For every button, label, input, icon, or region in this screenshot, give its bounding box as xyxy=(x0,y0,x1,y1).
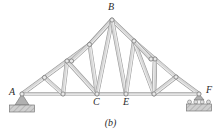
truss-members xyxy=(22,20,199,95)
support-ground-hatch xyxy=(10,105,35,112)
truss-joint xyxy=(65,59,69,63)
truss-member xyxy=(154,59,176,78)
truss-joint xyxy=(149,57,153,61)
support-ground-hatch xyxy=(187,104,212,111)
truss-joint xyxy=(61,92,65,96)
joint-label-E: E xyxy=(123,97,129,107)
roller-wheel xyxy=(194,100,198,104)
truss-diagram-canvas xyxy=(0,0,221,135)
joint-label-A: A xyxy=(9,87,15,97)
truss-member xyxy=(63,94,97,95)
roller-wheel xyxy=(207,100,211,104)
truss-joint xyxy=(132,39,136,43)
figure-caption: (b) xyxy=(0,118,221,128)
truss-member xyxy=(153,59,155,94)
truss-figure: ABCEF (b) xyxy=(0,0,221,135)
roller-support-F xyxy=(187,94,212,111)
truss-joint xyxy=(69,59,73,63)
truss-member xyxy=(22,94,63,95)
truss-joint xyxy=(42,75,46,79)
roller-wheel xyxy=(200,100,204,104)
joint-label-C: C xyxy=(93,97,100,107)
joint-label-F: F xyxy=(206,85,212,95)
truss-supports xyxy=(10,94,212,112)
truss-member xyxy=(126,41,135,94)
truss-member xyxy=(126,94,154,95)
truss-joint-F xyxy=(197,92,201,96)
truss-joint xyxy=(152,92,156,96)
truss-joint xyxy=(174,75,178,79)
joint-label-B: B xyxy=(108,2,114,12)
truss-member xyxy=(97,94,126,95)
roller-wheel xyxy=(188,100,192,104)
truss-member xyxy=(154,94,199,95)
truss-joint xyxy=(153,57,157,61)
truss-joint-B xyxy=(110,18,114,22)
truss-joint xyxy=(87,42,91,46)
truss-joint-A xyxy=(20,92,24,96)
